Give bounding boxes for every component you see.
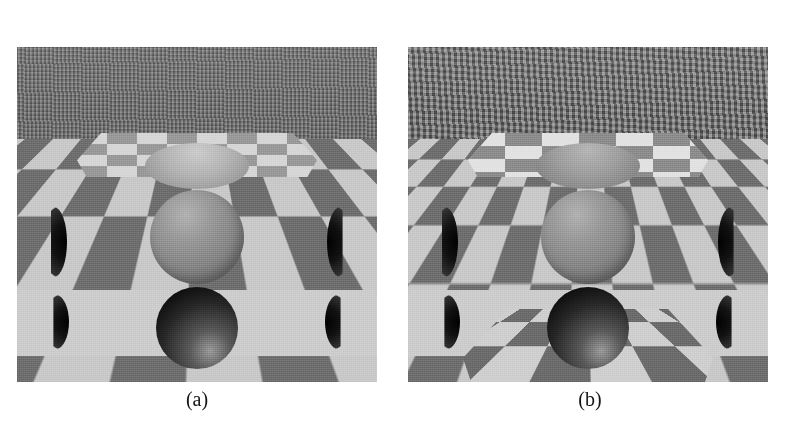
- dark-inset-sphere: [156, 287, 238, 369]
- reflected-ceiling-sphere: [145, 143, 249, 189]
- figure-panel-a: [17, 47, 377, 382]
- rendered-scene-a: [17, 47, 377, 382]
- checkerboard-floor: [408, 47, 768, 139]
- panel-a-caption: (a): [137, 388, 257, 411]
- rendered-scene-b: [408, 47, 768, 382]
- reflected-ceiling-sphere: [536, 143, 640, 189]
- central-floating-sphere: [150, 190, 244, 284]
- dark-inset-sphere: [547, 287, 629, 369]
- central-floating-sphere: [541, 190, 635, 284]
- panel-b-caption: (b): [530, 388, 650, 411]
- figure-root: (a) (b): [0, 0, 785, 425]
- figure-panel-b: [408, 47, 768, 382]
- checkerboard-floor: [17, 47, 377, 139]
